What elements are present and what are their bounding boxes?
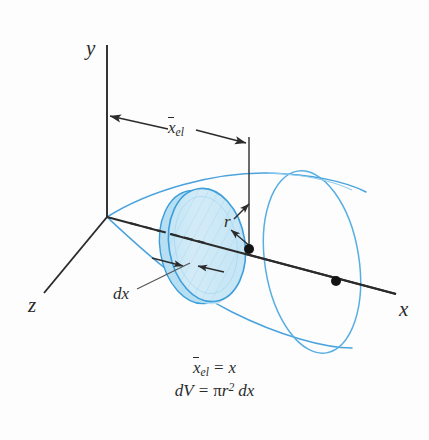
- disk-element: [144, 162, 270, 322]
- figure-canvas: y z x xel r dx xel=x dV=πr2dx: [0, 0, 429, 440]
- z-axis: [44, 217, 107, 293]
- centroid-dot: [331, 276, 341, 286]
- eq-volume-pi: π: [213, 381, 222, 400]
- eq-centroid-rhs: x: [228, 358, 236, 377]
- element-center-dot: [244, 244, 254, 254]
- eq-centroid-operator: =: [214, 358, 224, 377]
- eq-centroid-lhs-sub: el: [201, 366, 209, 379]
- dimension-label-base: x: [168, 118, 176, 138]
- end-circle: [251, 164, 373, 360]
- equation-volume: dV=πr2dx: [0, 381, 429, 401]
- eq-centroid-lhs-base: x: [193, 358, 201, 378]
- eq-volume-dx: dx: [238, 381, 254, 400]
- equation-centroid: xel=x: [0, 358, 429, 379]
- thickness-label-dx: dx: [113, 284, 129, 304]
- eq-volume-operator: =: [199, 381, 209, 400]
- eq-volume-lhs: dV: [175, 381, 194, 400]
- radius-label: r: [224, 212, 231, 232]
- eq-volume-exponent: 2: [228, 381, 234, 394]
- dimension-label-x-el: xel: [168, 118, 184, 139]
- z-axis-label: z: [28, 293, 36, 318]
- x-axis-label: x: [399, 297, 408, 322]
- dimension-label-sub: el: [176, 126, 184, 139]
- y-axis-label: y: [86, 36, 95, 61]
